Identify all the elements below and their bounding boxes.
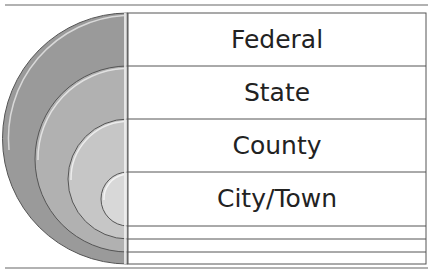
government-levels-diagram: Federal State County City/Town (0, 0, 433, 271)
label-federal: Federal (128, 13, 426, 66)
label-state: State (128, 66, 426, 119)
divider-highlight (124, 13, 127, 264)
label-county: County (128, 119, 426, 172)
label-city-town: City/Town (128, 172, 426, 225)
